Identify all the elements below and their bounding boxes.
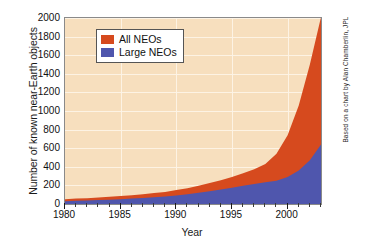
y-tick-label: 1600 [38, 49, 60, 60]
y-tick-label: 800 [43, 123, 60, 134]
y-tick-label: 1000 [38, 105, 60, 116]
x-tick-minor [86, 203, 87, 207]
x-tick-minor [131, 203, 132, 207]
x-tick-minor [186, 203, 187, 207]
chart-figure: Number of known near-Earth objects 02004… [0, 0, 365, 249]
x-tick-major [231, 203, 232, 209]
y-tick-label: 2000 [38, 12, 60, 23]
chart-legend: All NEOs Large NEOs [96, 29, 184, 63]
x-tick-label: 1980 [53, 209, 75, 220]
legend-swatch-all-neos [101, 35, 114, 44]
legend-label-all-neos: All NEOs [119, 34, 162, 45]
legend-item-large-neos: Large NEOs [101, 46, 177, 59]
x-tick-minor [242, 203, 243, 207]
x-tick-minor [220, 203, 221, 207]
x-tick-major [64, 203, 65, 209]
x-tick-minor [142, 203, 143, 207]
x-tick-minor [97, 203, 98, 207]
x-axis-title: Year [64, 226, 320, 238]
x-tick-major [175, 203, 176, 209]
x-tick-minor [253, 203, 254, 207]
legend-label-large-neos: Large NEOs [119, 47, 177, 58]
y-tick-label: 400 [43, 160, 60, 171]
y-axis-tick-labels: 0200400600800100012001400160018002000 [22, 17, 60, 203]
x-tick-major [120, 203, 121, 209]
x-tick-minor [264, 203, 265, 207]
x-axis-tick-labels: 19801985199019952000 [64, 209, 320, 223]
x-tick-minor [198, 203, 199, 207]
legend-swatch-large-neos [101, 48, 114, 57]
x-tick-minor [109, 203, 110, 207]
x-tick-minor [209, 203, 210, 207]
x-tick-major [287, 203, 288, 209]
x-tick-minor [164, 203, 165, 207]
x-tick-minor [153, 203, 154, 207]
chart-credit: Based on a chart by Alan Chamberlin, JPL [342, 16, 349, 144]
y-tick-label: 200 [43, 179, 60, 190]
legend-item-all-neos: All NEOs [101, 33, 177, 46]
x-tick-minor [275, 203, 276, 207]
y-tick-label: 1800 [38, 30, 60, 41]
y-tick-label: 600 [43, 142, 60, 153]
y-tick-label: 1400 [38, 67, 60, 78]
x-tick-label: 1990 [164, 209, 186, 220]
y-tick-label: 0 [54, 198, 60, 209]
y-tick-label: 1200 [38, 86, 60, 97]
x-tick-label: 1985 [109, 209, 131, 220]
x-tick-label: 2000 [275, 209, 297, 220]
x-tick-minor [75, 203, 76, 207]
x-tick-minor [320, 203, 321, 207]
x-tick-label: 1995 [220, 209, 242, 220]
x-tick-minor [309, 203, 310, 207]
x-tick-minor [298, 203, 299, 207]
